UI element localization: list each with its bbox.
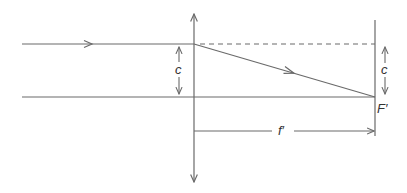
c-label-left: c <box>175 62 182 77</box>
refracted-ray <box>194 44 375 97</box>
c-label-right: c <box>381 62 388 77</box>
focal-point-label: F′ <box>377 101 388 116</box>
lens-diagram: c c F′ f′ <box>0 0 407 193</box>
focal-length-label: f′ <box>278 123 285 138</box>
diagram-canvas: c c F′ f′ <box>0 0 407 193</box>
